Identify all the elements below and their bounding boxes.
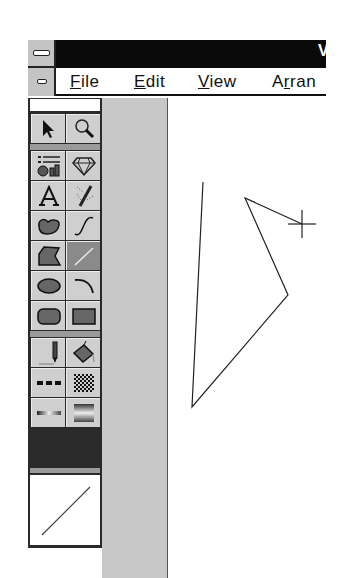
drawn-polyline[interactable] <box>192 182 302 407</box>
crosshair-icon <box>288 210 316 238</box>
drawing-layer <box>0 0 342 578</box>
